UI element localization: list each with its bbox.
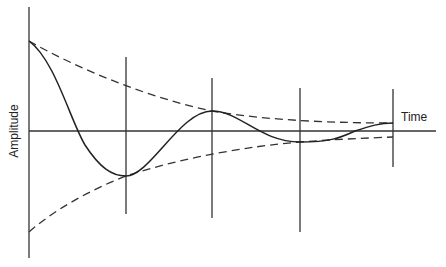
lower-envelope-curve xyxy=(29,137,393,232)
damped-oscillation-diagram: Time Amplitude xyxy=(0,0,446,267)
x-axis-label: Time xyxy=(401,110,428,124)
damped-oscillation-curve xyxy=(29,41,393,176)
y-axis-label: Amplitude xyxy=(7,104,21,158)
